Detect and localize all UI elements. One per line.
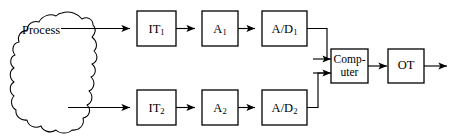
process-blob-group: Process xyxy=(10,12,97,133)
node-computer[interactable]: Comp- uter xyxy=(331,49,368,83)
node-computer-label-line1: Comp- xyxy=(334,53,366,66)
node-it2[interactable]: IT2 xyxy=(137,90,176,125)
node-ad1[interactable]: A/D1 xyxy=(262,11,307,46)
node-ot-label: OT xyxy=(398,58,415,72)
node-a1[interactable]: A1 xyxy=(202,11,238,46)
node-computer-label-line2: uter xyxy=(341,66,359,78)
process-label: Process xyxy=(22,23,60,37)
connection-ad2-to-computer xyxy=(307,73,331,108)
block-diagram-canvas: Process xyxy=(0,0,455,137)
node-a2[interactable]: A2 xyxy=(202,90,238,125)
diagram-svg: Process xyxy=(0,0,455,137)
connection-ad1-to-computer xyxy=(307,29,331,60)
node-it1[interactable]: IT1 xyxy=(137,11,176,46)
node-ad2[interactable]: A/D2 xyxy=(262,90,307,125)
node-ot[interactable]: OT xyxy=(388,49,424,83)
